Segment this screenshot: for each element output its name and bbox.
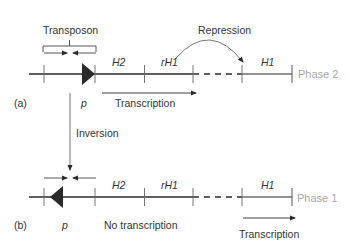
gene-rh1-label-b: rH1	[161, 180, 178, 191]
panel-b-label: (b)	[14, 220, 27, 231]
phase-1-label: Phase 1	[297, 193, 337, 204]
promoter-triangle-right	[82, 63, 95, 85]
transcription-label-b: Transcription	[239, 229, 299, 240]
panel-a-label: (a)	[14, 98, 27, 109]
promoter-triangle-left	[50, 186, 63, 208]
promoter-label-a: p	[81, 98, 87, 109]
transposon-bracket	[43, 40, 96, 52]
phase-2-label: Phase 2	[298, 69, 338, 80]
gene-h1-label-b: H1	[261, 180, 274, 191]
transcription-label-a: Transcription	[115, 98, 175, 109]
transposon-label: Transposon	[43, 25, 98, 36]
gene-h1-label-a: H1	[261, 57, 274, 68]
gene-h2-label-b: H2	[112, 180, 125, 191]
repression-arc	[176, 40, 243, 62]
gene-h2-label-a: H2	[112, 57, 125, 68]
inversion-label: Inversion	[76, 128, 119, 139]
no-transcription-label: No transcription	[104, 220, 178, 231]
repression-label: Repression	[198, 25, 251, 36]
diagram-graphics	[0, 0, 350, 248]
promoter-label-b: p	[62, 220, 68, 231]
gene-rh1-label-a: rH1	[161, 57, 178, 68]
